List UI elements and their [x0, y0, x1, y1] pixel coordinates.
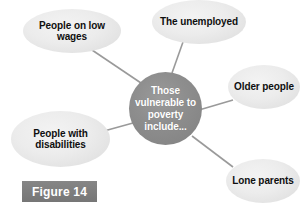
node-label-older-people: Older people — [231, 81, 297, 93]
node-label-lone-parents: Lone parents — [229, 175, 297, 187]
node-label-low-wages: People on low wages — [23, 20, 121, 43]
node-label-people-with-disabilities: People with disabilities — [11, 128, 110, 151]
figure-caption-label: Figure 14 — [32, 185, 87, 199]
node-lone-parents: Lone parents — [226, 159, 300, 203]
node-older-people: Older people — [228, 65, 300, 109]
node-label-unemployed: The unemployed — [157, 16, 241, 28]
connector-unemployed-to-center — [172, 42, 183, 73]
node-center-those-vulnerable: Those vulnerable to poverty include... — [129, 72, 202, 145]
figure-caption-badge: Figure 14 — [22, 181, 97, 202]
node-the-unemployed: The unemployed — [152, 0, 246, 44]
connector-low-wages-to-center — [92, 50, 141, 83]
connector-older-people-to-center — [199, 100, 233, 110]
node-people-with-disabilities: People with disabilities — [11, 111, 110, 167]
figure-canvas: People on low wages The unemployed Older… — [0, 0, 302, 219]
node-label-center: Those vulnerable to poverty include... — [129, 85, 202, 133]
connector-lone-parents-to-center — [192, 136, 233, 167]
node-people-on-low-wages: People on low wages — [23, 9, 121, 53]
